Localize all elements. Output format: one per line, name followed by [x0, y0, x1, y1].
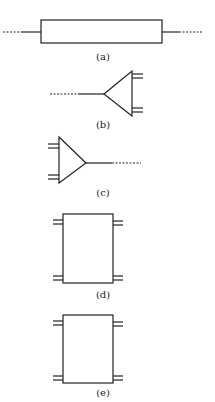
- figure-e: (e): [53, 315, 123, 398]
- figure-a: (a): [3, 20, 203, 62]
- figure-label-b: (b): [96, 119, 110, 130]
- figure-label-e: (e): [96, 387, 110, 398]
- triangle-block: [104, 71, 132, 116]
- diagram-canvas: (a) (b) (c) (d): [0, 0, 215, 402]
- block-rectangle: [41, 20, 162, 43]
- figure-b: (b): [50, 71, 143, 130]
- figure-c: (c): [48, 137, 141, 198]
- block-rectangle: [63, 315, 113, 383]
- figure-label-a: (a): [96, 51, 110, 62]
- figure-label-c: (c): [96, 187, 110, 198]
- triangle-block: [59, 137, 86, 183]
- figure-d: (d): [53, 214, 123, 300]
- figure-label-d: (d): [96, 289, 110, 300]
- block-rectangle: [63, 214, 113, 283]
